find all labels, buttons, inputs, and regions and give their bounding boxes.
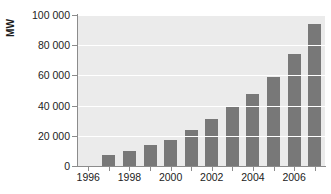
plot-area <box>78 15 325 166</box>
gridline <box>78 45 325 46</box>
y-axis-tick <box>72 75 77 76</box>
y-axis-tick-labels: 020 00040 00060 00080 000100 000 <box>0 0 70 194</box>
y-axis-tick <box>72 166 77 167</box>
y-axis-tick-label: 0 <box>4 161 70 171</box>
bar <box>123 151 136 166</box>
gridline <box>78 106 325 107</box>
y-axis-tick <box>72 136 77 137</box>
y-axis-tick-label: 60 000 <box>4 70 70 80</box>
y-axis-tick <box>72 106 77 107</box>
x-axis-tick <box>315 167 316 171</box>
x-axis-tick-label: 2006 <box>274 171 314 183</box>
y-axis-tick-label: 40 000 <box>4 101 70 111</box>
y-axis-line <box>77 14 78 167</box>
bar <box>102 155 115 166</box>
y-axis-tick-label: 20 000 <box>4 131 70 141</box>
y-axis-tick-label: 100 000 <box>4 10 70 20</box>
x-axis-tick-label: 1996 <box>68 171 108 183</box>
bar <box>164 140 177 166</box>
bar-chart: MW 020 00040 00060 00080 000100 000 1996… <box>0 0 331 194</box>
bar <box>205 119 218 166</box>
bar <box>288 54 301 166</box>
x-axis-line <box>77 166 326 167</box>
bars-layer <box>78 15 325 166</box>
x-axis-tick-label: 2000 <box>151 171 191 183</box>
x-axis-tick-label: 2002 <box>192 171 232 183</box>
x-axis-tick-label: 1998 <box>109 171 149 183</box>
gridline <box>78 136 325 137</box>
gridline <box>78 15 325 16</box>
bar <box>267 77 280 166</box>
x-axis-tick-label: 2004 <box>233 171 273 183</box>
gridline <box>78 75 325 76</box>
y-axis-tick <box>72 45 77 46</box>
bar <box>144 145 157 166</box>
y-axis-tick-label: 80 000 <box>4 40 70 50</box>
y-axis-tick <box>72 15 77 16</box>
